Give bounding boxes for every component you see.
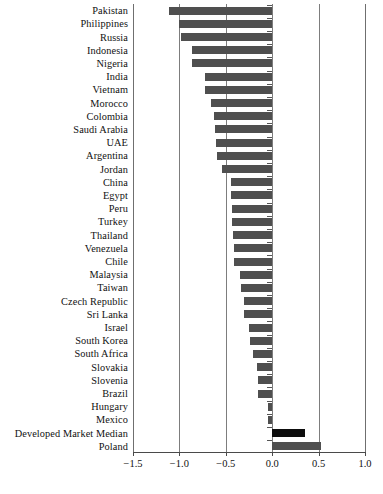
bar — [169, 7, 272, 15]
category-label: Malaysia — [89, 269, 128, 280]
row-stub — [267, 308, 272, 309]
row-stub — [267, 348, 272, 349]
bar — [211, 99, 272, 107]
row-stub — [267, 282, 272, 283]
tick-mark — [365, 453, 366, 456]
tick-mark — [319, 453, 320, 456]
bar — [249, 324, 272, 332]
x-tick-label: 0.0 — [252, 458, 292, 470]
bar — [232, 218, 272, 226]
horizontal-bar-chart: PakistanPhilippinesRussiaIndonesiaNigeri… — [0, 0, 383, 494]
row-stub — [267, 295, 272, 296]
category-label: Chile — [105, 256, 128, 267]
gridline-1 — [365, 4, 366, 453]
row-stub — [267, 203, 272, 204]
category-label: South Korea — [75, 335, 128, 346]
category-label: Slovakia — [91, 362, 128, 373]
row-stub — [267, 137, 272, 138]
category-label: Taiwan — [97, 282, 128, 293]
bar — [215, 125, 273, 133]
row-stub — [267, 374, 272, 375]
bar — [244, 310, 272, 318]
bar — [241, 284, 273, 292]
gridline--0-5 — [226, 4, 227, 453]
category-label: Indonesia — [87, 45, 128, 56]
category-label: Argentina — [86, 150, 128, 161]
tick-mark — [272, 453, 273, 456]
row-stub — [267, 361, 272, 362]
row-stub — [267, 321, 272, 322]
row-stub — [267, 110, 272, 111]
bar — [253, 350, 272, 358]
bar — [258, 376, 272, 384]
bar — [222, 165, 272, 173]
category-label: South Africa — [74, 348, 128, 359]
row-stub — [267, 335, 272, 336]
x-tick-label: 0.5 — [299, 458, 339, 470]
x-tick-label: 1.0 — [345, 458, 383, 470]
row-stub — [267, 176, 272, 177]
bar — [179, 20, 272, 28]
row-stub — [267, 31, 272, 32]
bar — [250, 337, 272, 345]
row-stub — [267, 84, 272, 85]
row-stub — [267, 255, 272, 256]
bar — [268, 416, 272, 424]
row-stub — [267, 123, 272, 124]
row-stub — [267, 440, 272, 441]
gridline--1-5 — [133, 4, 134, 453]
bar — [234, 244, 272, 252]
category-label: Thailand — [91, 230, 128, 241]
category-label-column: PakistanPhilippinesRussiaIndonesiaNigeri… — [0, 4, 133, 453]
row-stub — [267, 216, 272, 217]
bar — [217, 152, 272, 160]
bar — [192, 46, 272, 54]
tick-mark — [133, 453, 134, 456]
category-label: Poland — [99, 441, 128, 452]
bar — [234, 258, 272, 266]
gridline-0-5 — [319, 4, 320, 453]
row-stub — [267, 150, 272, 151]
bar — [272, 429, 304, 437]
row-stub — [267, 5, 272, 6]
category-label: Pakistan — [92, 5, 128, 16]
bar — [205, 86, 272, 94]
row-stub — [267, 97, 272, 98]
plot-area — [133, 4, 365, 453]
category-label: Saudi Arabia — [73, 124, 128, 135]
row-stub — [267, 71, 272, 72]
bar — [181, 33, 272, 41]
category-label: Nigeria — [96, 58, 128, 69]
bar — [205, 73, 272, 81]
x-tick-label: −0.5 — [206, 458, 246, 470]
bar — [231, 191, 272, 199]
category-label: Slovenia — [91, 375, 128, 386]
x-axis-line — [133, 452, 366, 453]
category-label: Hungary — [91, 401, 128, 412]
bar — [232, 205, 272, 213]
category-label: China — [103, 177, 128, 188]
category-label: India — [106, 71, 128, 82]
x-tick-label: −1.5 — [113, 458, 153, 470]
category-label: Israel — [105, 322, 128, 333]
bar — [192, 59, 272, 67]
category-label: Brazil — [102, 388, 128, 399]
row-stub — [267, 229, 272, 230]
bar — [233, 231, 272, 239]
category-label: Philippines — [81, 18, 128, 29]
tick-mark — [179, 453, 180, 456]
bar — [216, 139, 273, 147]
row-stub — [267, 414, 272, 415]
category-label: Colombia — [87, 111, 128, 122]
row-stub — [267, 242, 272, 243]
category-label: Mexico — [96, 414, 128, 425]
bar — [258, 390, 272, 398]
category-label: UAE — [107, 137, 128, 148]
gridline--1 — [179, 4, 180, 453]
tick-mark — [226, 453, 227, 456]
row-stub — [267, 387, 272, 388]
row-stub — [267, 163, 272, 164]
category-label: Developed Market Median — [15, 428, 128, 439]
category-label: Egypt — [103, 190, 128, 201]
category-label: Russia — [100, 32, 128, 43]
